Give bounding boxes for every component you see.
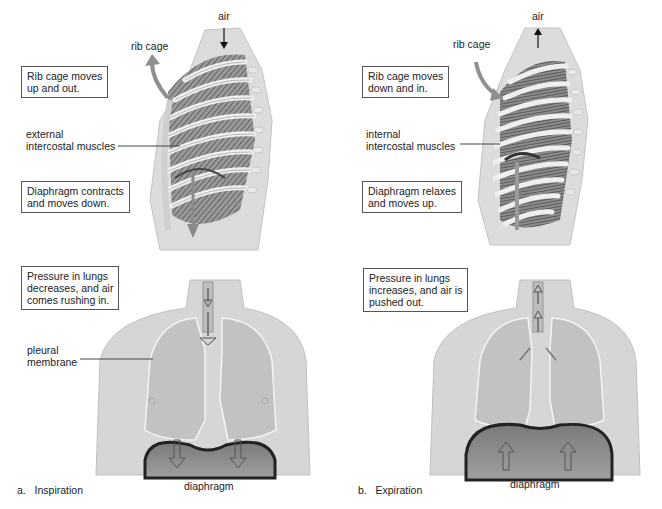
inspiration-side-view [145, 28, 272, 250]
diaphragm-movement-box-a: Diaphragm contracts and moves down. [21, 181, 130, 213]
external-intercostal-label: external intercostal muscles [26, 128, 115, 152]
rib-cage-movement-box-a: Rib cage moves up and out. [21, 66, 108, 98]
caption-expiration: b. Expiration [358, 484, 422, 496]
expiration-side-view [476, 28, 588, 245]
inspiration-front-view [96, 280, 310, 478]
pleural-membrane-label: pleural membrane [27, 344, 77, 368]
diaphragm-label-b: diaphragm [510, 478, 560, 490]
rib-cage-label-b: rib cage [453, 38, 490, 50]
air-label-b: air [532, 10, 544, 22]
rib-cage-movement-box-b: Rib cage moves down and in. [362, 66, 449, 98]
pressure-box-a: Pressure in lungs decreases, and air com… [21, 266, 119, 310]
internal-intercostal-label: internal intercostal muscles [366, 128, 455, 152]
caption-inspiration: a. Inspiration [17, 484, 83, 496]
pressure-box-b: Pressure in lungs increases, and air is … [363, 268, 468, 312]
diaphragm-movement-box-b: Diaphragm relaxes and moves up. [362, 181, 462, 213]
air-label-a: air [218, 10, 230, 22]
rib-cage-label-a: rib cage [131, 40, 168, 52]
diaphragm-label-a: diaphragm [184, 480, 234, 492]
